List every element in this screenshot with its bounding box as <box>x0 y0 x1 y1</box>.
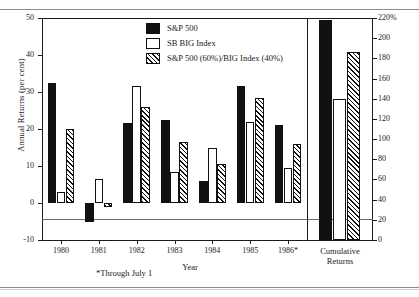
secondary-y-tick-mark <box>373 240 377 241</box>
x-tick-label: 1985 <box>230 246 270 255</box>
bar-open-1985 <box>246 122 255 203</box>
x-tick-label: 1981 <box>79 246 119 255</box>
secondary-y-tick-label: 140 <box>378 95 404 103</box>
bar-open-1980 <box>57 192 66 203</box>
legend-swatch-big-index <box>146 38 160 49</box>
x-tick-label: 1982 <box>117 246 157 255</box>
bar-hatch-1986 <box>293 144 302 203</box>
bar-hatch-1985 <box>255 98 264 203</box>
secondary-y-tick-mark <box>373 58 377 59</box>
y-axis-label: Annual Returns (per cent) <box>16 50 26 160</box>
legend-item-blend: S&P 500 (60%)/BIG Index (40%) <box>146 52 318 67</box>
axis-left <box>42 18 43 240</box>
secondary-y-tick-label: 60 <box>378 175 404 183</box>
secondary-y-tick-mark <box>373 159 377 160</box>
y-tick-label: 50 <box>12 14 34 22</box>
y-tick-label: 20 <box>12 125 34 133</box>
y-tick-mark <box>38 203 42 204</box>
bar-hatch-1984 <box>217 164 226 203</box>
cumulative-label-line1: Cumulative <box>320 246 360 256</box>
chart-legend: S&P 500 SB BIG Index S&P 500 (60%)/BIG I… <box>146 22 318 67</box>
y-tick-label: -10 <box>12 236 34 244</box>
secondary-y-tick-mark <box>373 119 377 120</box>
cumulative-bar-hatch <box>347 52 360 240</box>
bar-hatch-1981 <box>104 203 113 207</box>
secondary-y-tick-mark <box>373 220 377 221</box>
y-tick-mark <box>38 55 42 56</box>
x-tick-label: 1984 <box>192 246 232 255</box>
bar-open-1983 <box>170 172 179 203</box>
secondary-y-tick-label: 0 <box>378 236 404 244</box>
y-tick-mark <box>38 166 42 167</box>
x-tick-mark <box>61 240 62 244</box>
scan-top-text-fragment <box>4 0 204 8</box>
cumulative-panel-label: Cumulative Returns <box>305 246 375 266</box>
bar-solid-1981 <box>85 203 94 222</box>
y-tick-mark <box>38 240 42 241</box>
x-tick-label: 1986* <box>268 246 308 255</box>
x-tick-mark <box>250 240 251 244</box>
figure-canvas: Annual Returns (per cent) Year -10010203… <box>0 0 419 297</box>
axis-bottom <box>42 240 373 241</box>
bar-solid-1985 <box>237 86 246 203</box>
secondary-y-tick-label: 180 <box>378 54 404 62</box>
bar-solid-1984 <box>199 181 208 203</box>
x-axis-label: Year <box>160 262 220 272</box>
bar-solid-1986 <box>275 125 284 203</box>
secondary-y-tick-mark <box>373 38 377 39</box>
legend-label-sp500: S&P 500 <box>167 22 198 35</box>
axis-top <box>42 18 373 19</box>
bar-open-1982 <box>132 86 141 203</box>
x-tick-mark <box>212 240 213 244</box>
y-tick-mark <box>38 18 42 19</box>
bar-hatch-1983 <box>179 142 188 203</box>
y-tick-label: 0 <box>12 199 34 207</box>
legend-item-sp500: S&P 500 <box>146 22 318 37</box>
scan-rule-bottom <box>0 287 419 288</box>
y-tick-mark <box>38 129 42 130</box>
secondary-y-tick-label: 120 <box>378 115 404 123</box>
secondary-y-tick-label: 100 <box>378 135 404 143</box>
legend-item-big-index: SB BIG Index <box>146 37 318 52</box>
secondary-y-tick-label: 160 <box>378 75 404 83</box>
x-tick-label: 1983 <box>155 246 195 255</box>
x-tick-mark <box>175 240 176 244</box>
secondary-y-tick-label: 80 <box>378 155 404 163</box>
bar-solid-1982 <box>123 123 132 203</box>
y-tick-mark <box>38 92 42 93</box>
bar-open-1981 <box>95 179 104 203</box>
legend-swatch-sp500 <box>146 23 160 34</box>
legend-label-big-index: SB BIG Index <box>167 37 216 50</box>
x-tick-mark <box>99 240 100 244</box>
figure-footnote: *Through July 1 <box>96 268 152 278</box>
x-tick-label: 1980 <box>41 246 81 255</box>
bar-solid-1983 <box>161 120 170 203</box>
secondary-y-tick-mark <box>373 18 377 19</box>
secondary-y-tick-mark <box>373 200 377 201</box>
bar-hatch-1980 <box>66 129 75 203</box>
bar-open-1986 <box>284 168 293 203</box>
secondary-y-tick-mark <box>373 179 377 180</box>
bar-solid-1980 <box>48 83 57 203</box>
legend-swatch-blend <box>146 53 160 64</box>
cumulative-label-line2: Returns <box>327 256 353 266</box>
bar-hatch-1982 <box>141 107 150 203</box>
secondary-y-tick-label: 200 <box>378 34 404 42</box>
y-tick-label: 10 <box>12 162 34 170</box>
secondary-y-tick-label: 220% <box>378 14 404 22</box>
x-tick-mark <box>288 240 289 244</box>
legend-label-blend: S&P 500 (60%)/BIG Index (40%) <box>167 52 283 65</box>
axis-right <box>372 18 373 240</box>
secondary-y-tick-label: 20 <box>378 216 404 224</box>
x-tick-mark <box>137 240 138 244</box>
secondary-y-tick-label: 40 <box>378 196 404 204</box>
cumulative-bar-solid <box>319 20 332 240</box>
cumulative-bar-open <box>333 99 346 240</box>
bar-open-1984 <box>208 148 217 204</box>
scan-rule-top <box>0 9 419 10</box>
secondary-y-tick-mark <box>373 99 377 100</box>
secondary-y-tick-mark <box>373 139 377 140</box>
scan-rule-bottom-secondary <box>0 289 419 290</box>
y-tick-label: 30 <box>12 88 34 96</box>
secondary-y-tick-mark <box>373 79 377 80</box>
